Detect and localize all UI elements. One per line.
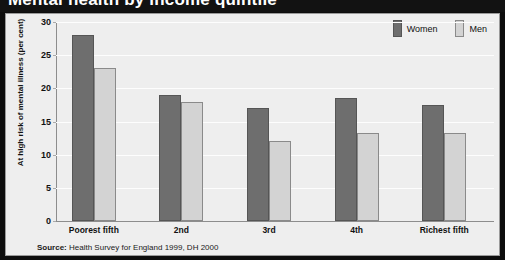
bar-women	[72, 35, 94, 221]
bar-men	[181, 102, 203, 221]
y-tickmark	[53, 221, 56, 222]
plot-area: 051015202530Poorest fifth2nd3rd4thRiches…	[56, 22, 494, 222]
bar-men	[94, 68, 116, 221]
bar-women	[422, 105, 444, 221]
source-note: Source: Health Survey for England 1999, …	[5, 242, 500, 256]
y-axis-title: At high risk of mental illness (per cent…	[16, 13, 25, 173]
y-tickmark	[53, 155, 56, 156]
source-prefix: Source:	[37, 243, 67, 252]
figure-title-strip: Mental health by income quintile	[0, 0, 505, 12]
y-tickmark	[53, 188, 56, 189]
y-tick-label: 15	[41, 117, 51, 127]
x-tick-label: Poorest fifth	[49, 225, 139, 235]
y-tick-label: 25	[41, 50, 51, 60]
source-text: Health Survey for England 1999, DH 2000	[67, 243, 219, 252]
x-tick-label: 3rd	[224, 225, 314, 235]
y-tick-label: 20	[41, 83, 51, 93]
y-tick-label: 30	[41, 17, 51, 27]
y-tick-label: 10	[41, 150, 51, 160]
bar-men	[269, 141, 291, 221]
x-axis-line	[56, 221, 494, 222]
x-tick-label: 4th	[312, 225, 402, 235]
bar-group: Poorest fifth	[72, 21, 116, 221]
y-tickmark	[53, 22, 56, 23]
bar-group: Richest fifth	[422, 21, 466, 221]
bar-men	[444, 133, 466, 221]
bottom-bar	[0, 256, 505, 260]
chart-panel: Women Men At high risk of mental illness…	[5, 13, 500, 246]
y-tickmark	[53, 55, 56, 56]
y-tickmark	[53, 88, 56, 89]
page-title: Mental health by income quintile	[8, 0, 277, 10]
bar-men	[357, 133, 379, 221]
y-tickmark	[53, 122, 56, 123]
bar-group: 4th	[335, 21, 379, 221]
bar-women	[247, 108, 269, 221]
chart-figure: Mental health by income quintile Women M…	[0, 0, 505, 260]
bar-group: 2nd	[159, 21, 203, 221]
bar-women	[335, 98, 357, 221]
bar-group: 3rd	[247, 21, 291, 221]
bar-women	[159, 95, 181, 221]
y-tick-label: 5	[46, 183, 51, 193]
x-tick-label: Richest fifth	[399, 225, 489, 235]
x-tick-label: 2nd	[136, 225, 226, 235]
